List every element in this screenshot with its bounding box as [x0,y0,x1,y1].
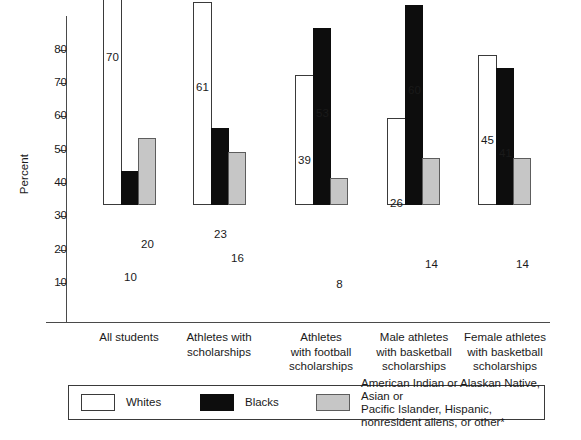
x-axis-label-all-students: All students [79,330,179,345]
bar-chart: Percent 80 70 60 50 40 30 20 10 70 10 [0,0,581,440]
x-axis-label-athletes-scholarships: Athletes with scholarships [169,330,269,359]
bar-whites-female-basketball[interactable] [478,55,497,205]
bar-value: 23 [203,229,238,241]
bar-blacks-female-basketball[interactable] [496,68,514,205]
legend-swatch-blacks-icon [200,394,234,411]
bar-blacks-athletes-scholarships[interactable] [211,128,229,205]
bar-other-male-basketball[interactable] [422,158,440,205]
bar-value: 16 [220,253,255,265]
bar-blacks-all-students[interactable] [121,171,139,205]
x-axis-label-football: Athletes with football scholarships [271,330,371,374]
bar-value: 20 [130,239,165,251]
bar-whites-male-basketball[interactable] [387,118,406,205]
legend-label: American Indian or Alaskan Native, Asian… [361,377,544,429]
bar-value: 14 [414,259,449,271]
legend-item-blacks[interactable]: Blacks [200,386,279,419]
plot-area: 70 10 20 61 23 16 39 53 8 26 60 14 45 41 [0,0,581,323]
bar-other-athletes-scholarships[interactable] [228,152,246,205]
bar-whites-athletes-scholarships[interactable] [193,2,212,205]
bar-other-female-basketball[interactable] [513,158,531,205]
legend-label: Blacks [245,396,279,409]
bar-value: 70 [95,52,130,64]
bar-value: 10 [113,272,148,284]
bar-other-football[interactable] [330,178,348,205]
chart-legend: Whites Blacks American Indian or Alaskan… [68,385,545,420]
x-axis-label-female-basketball: Female athletes with basketball scholars… [449,330,561,374]
bar-blacks-male-basketball[interactable] [405,5,423,205]
bar-whites-football[interactable] [295,75,314,205]
legend-swatch-whites-icon [81,394,115,411]
legend-item-whites[interactable]: Whites [81,386,161,419]
bar-value: 53 [305,108,340,120]
bar-other-all-students[interactable] [138,138,156,205]
bar-whites-all-students[interactable] [103,0,122,205]
legend-item-other[interactable]: American Indian or Alaskan Native, Asian… [316,386,544,419]
legend-swatch-other-icon [316,394,350,411]
bar-value: 8 [322,279,357,291]
legend-label: Whites [126,396,161,409]
bar-value: 60 [397,85,432,97]
bar-value: 61 [185,82,220,94]
bar-value: 14 [505,259,540,271]
